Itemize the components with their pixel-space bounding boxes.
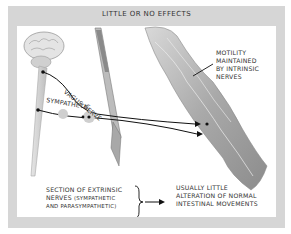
result-label: USUALLY LITTLE ALTERATION OF NORMAL INTE… — [176, 184, 258, 208]
brain-icon — [24, 32, 64, 68]
scalpel-icon — [95, 28, 121, 166]
section-label: SECTION OF EXTRINSIC NERVES (SYMPATHETIC… — [46, 186, 122, 210]
figure-frame: LITTLE OR NO EFFECTS — [8, 6, 285, 228]
illustration-panel: VAGUS NERVE SYMPATHETIC MOTILITY MAINTAI… — [17, 26, 276, 217]
result-arrow-icon — [159, 199, 165, 205]
spinal-cord — [31, 66, 47, 176]
figure-title: LITTLE OR NO EFFECTS — [8, 10, 285, 18]
brace — [135, 186, 143, 217]
motility-label: MOTILITY MAINTAINED BY INTRINSIC NERVES — [216, 49, 259, 81]
